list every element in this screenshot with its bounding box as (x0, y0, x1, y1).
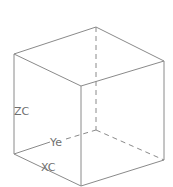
edge-bottom-back-right-hidden (96, 130, 164, 160)
cube-diagram: ZC Ye XC (0, 0, 173, 187)
edge-top-left-back (14, 27, 96, 54)
edge-top-back-right (96, 27, 164, 61)
y-axis-solid-segment (14, 142, 50, 154)
edge-bottom-front-right (81, 160, 164, 186)
y-axis-label: Ye (49, 136, 62, 149)
edge-top-left-front (14, 54, 81, 86)
z-axis-label: ZC (14, 105, 30, 118)
visible-edges (14, 27, 164, 186)
edge-top-front-right (81, 61, 164, 86)
x-axis-label: XC (41, 161, 56, 174)
